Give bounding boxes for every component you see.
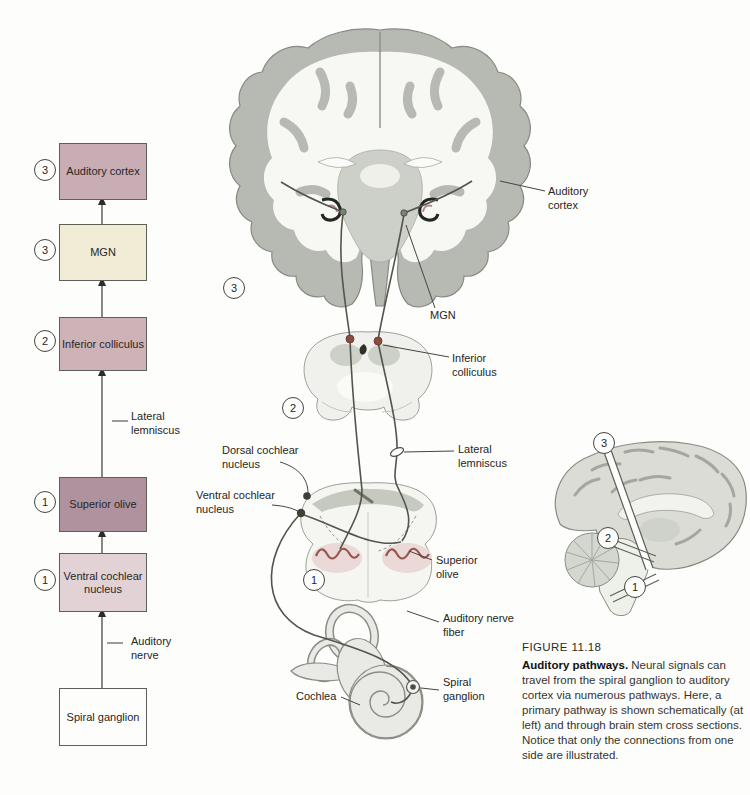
label-auditory-nerve-fiber: Auditory nerve fiber — [443, 612, 533, 639]
box-label: Ventral cochlear nucleus — [60, 570, 146, 596]
textbook-figure-page: Auditory cortex MGN Inferior colliculus … — [0, 0, 750, 795]
label-superior-olive: Superior olive — [436, 554, 494, 581]
flowchart-box-inferior-colliculus: Inferior colliculus — [59, 317, 147, 371]
flowchart-box-ventral-cochlear-nucleus: Ventral cochlear nucleus — [59, 553, 147, 612]
label-spiral-ganglion: Spiral ganglion — [443, 676, 499, 703]
flowchart-box-auditory-cortex: Auditory cortex — [59, 143, 147, 200]
box-label: Inferior colliculus — [62, 338, 144, 351]
edge-label-auditory-nerve: Auditory nerve — [131, 635, 193, 662]
label-dorsal-cochlear-nucleus: Dorsal cochlear nucleus — [222, 444, 310, 471]
step-badge-3: 3 — [34, 239, 56, 261]
sagittal-brain-locator — [555, 442, 746, 616]
box-label: Spiral ganglion — [67, 711, 140, 724]
label-inferior-colliculus: Inferior colliculus — [452, 352, 522, 379]
mgn-left-dot — [340, 209, 346, 215]
edge-label-lateral-lemniscus: Lateral lemniscus — [131, 410, 201, 437]
inferior-colliculus-left-dot — [346, 335, 354, 343]
box-label: MGN — [90, 246, 116, 259]
caption-text: Auditory pathways. Neural signals can tr… — [522, 658, 748, 763]
mgn-right-dot — [401, 210, 407, 216]
flowchart-box-spiral-ganglion: Spiral ganglion — [59, 688, 147, 746]
section-badge-2: 2 — [282, 397, 304, 419]
label-lateral-lemniscus: Lateral lemniscus — [458, 443, 528, 470]
section-badge-1: 1 — [303, 569, 325, 591]
label-cochlea: Cochlea — [296, 690, 336, 704]
inferior-colliculus-right-dot — [374, 337, 382, 345]
label-mgn: MGN — [430, 309, 456, 323]
cochlea-illustration — [291, 602, 423, 739]
midbrain-section — [304, 332, 432, 420]
sagittal-badge-3: 3 — [593, 432, 615, 454]
caption-title: Auditory pathways. — [522, 659, 628, 671]
dorsal-cochlear-nucleus-dot — [303, 492, 311, 500]
step-badge-1: 1 — [34, 569, 56, 591]
section-badge-3: 3 — [223, 277, 245, 299]
flowchart-box-mgn: MGN — [59, 224, 147, 281]
step-badge-2: 2 — [34, 330, 56, 352]
ventral-cochlear-nucleus-dot — [297, 509, 305, 517]
sagittal-badge-2: 2 — [597, 527, 619, 549]
figure-caption: FIGURE 11.18 Auditory pathways. Neural s… — [522, 640, 748, 763]
box-label: Auditory cortex — [66, 165, 139, 178]
figure-number: FIGURE 11.18 — [522, 640, 748, 655]
step-badge-3: 3 — [34, 159, 56, 181]
step-badge-1: 1 — [34, 491, 56, 513]
label-ventral-cochlear-nucleus: Ventral cochlear nucleus — [196, 489, 284, 516]
sagittal-badge-1: 1 — [624, 576, 646, 598]
box-label: Superior olive — [69, 498, 136, 511]
lateral-lemniscus-marker — [389, 446, 405, 458]
coronal-brain-section — [230, 29, 531, 307]
flowchart-box-superior-olive: Superior olive — [59, 477, 147, 532]
caption-body: Neural signals can travel from the spira… — [522, 659, 743, 761]
label-auditory-cortex: Auditory cortex — [548, 185, 608, 212]
